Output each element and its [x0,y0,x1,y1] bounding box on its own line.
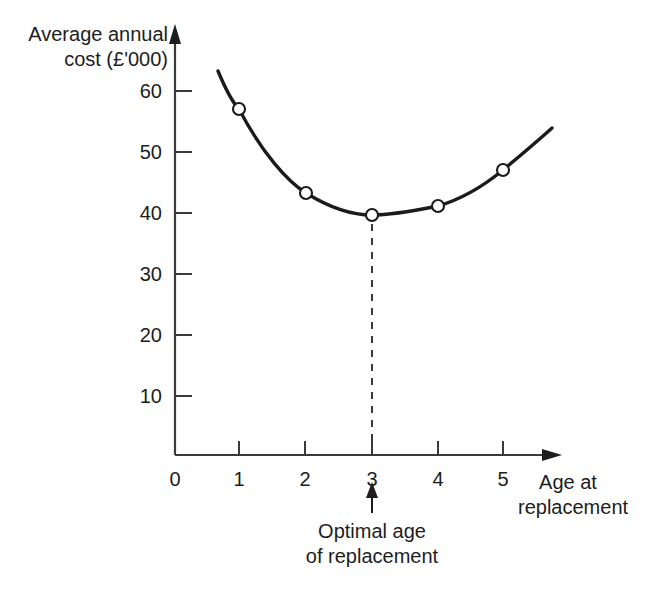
y-axis-title: Average annual cost (£'000) [18,22,168,72]
y-tick-label: 40 [106,203,162,223]
data-point-marker [233,103,245,115]
x-tick-label: 0 [169,469,180,489]
y-tick-label: 10 [106,386,162,406]
y-axis-ticks [175,91,192,396]
data-point-marker [366,209,378,221]
data-point-marker [432,200,444,212]
x-tick-label: 2 [299,469,310,489]
x-tick-label: 3 [366,469,377,489]
chart-figure: Average annual cost (£'000) Age at repla… [0,0,670,589]
cost-curve [218,71,552,215]
y-axis [169,24,181,455]
y-axis-arrowhead [169,24,181,44]
data-point-marker [497,164,509,176]
data-point-marker [300,187,312,199]
y-tick-label: 50 [106,142,162,162]
x-tick-label: 5 [497,469,508,489]
y-tick-label: 30 [106,264,162,284]
x-axis-arrowhead [542,449,562,461]
optimal-age-annotation-label: Optimal age of replacement [257,519,487,569]
y-tick-label: 20 [106,325,162,345]
x-tick-label: 4 [432,469,443,489]
x-axis-title: Age at replacement [518,470,618,520]
y-tick-label: 60 [106,81,162,101]
x-tick-label: 1 [233,469,244,489]
